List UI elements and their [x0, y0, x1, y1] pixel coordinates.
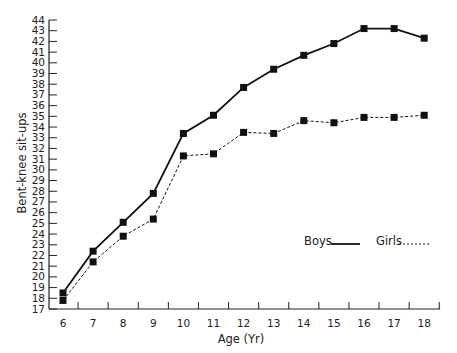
- data-point-marker: [421, 112, 428, 119]
- x-tick-label: 10: [177, 317, 190, 329]
- y-tick-label: 31: [32, 153, 45, 165]
- y-tick-label: 23: [32, 238, 45, 250]
- x-tick-label: 14: [297, 317, 311, 329]
- y-tick-label: 19: [32, 281, 45, 293]
- data-point-marker: [150, 190, 157, 197]
- x-tick-label: 7: [90, 317, 97, 329]
- x-tick-label: 9: [150, 317, 157, 329]
- y-tick-label: 43: [32, 24, 45, 36]
- legend: Boys Girls: [304, 234, 430, 248]
- data-point-marker: [120, 233, 127, 240]
- y-tick-label: 34: [32, 121, 46, 133]
- data-point-marker: [240, 84, 247, 91]
- data-point-marker: [391, 114, 398, 121]
- line-chart: 1718192021222324252627282930313233343536…: [0, 0, 457, 353]
- x-tick-label: 11: [207, 317, 220, 329]
- y-tick-label: 30: [32, 163, 45, 175]
- data-point-marker: [150, 216, 157, 223]
- x-tick-label: 15: [327, 317, 340, 329]
- y-tick-label: 41: [32, 46, 45, 58]
- y-tick-label: 17: [32, 303, 45, 315]
- x-tick-label: 17: [387, 317, 400, 329]
- data-point-marker: [270, 130, 277, 137]
- x-axis: 6789101112131415161718: [49, 302, 440, 329]
- data-point-marker: [240, 129, 247, 136]
- data-point-marker: [391, 25, 398, 32]
- x-tick-label: 6: [60, 317, 67, 329]
- legend-boys-label: Boys: [304, 234, 332, 248]
- data-point-marker: [60, 297, 67, 304]
- data-point-marker: [210, 150, 217, 157]
- y-tick-label: 20: [32, 270, 45, 282]
- data-point-marker: [90, 248, 97, 255]
- x-tick-label: 18: [418, 317, 431, 329]
- y-tick-label: 33: [32, 131, 45, 143]
- series-boys: [60, 25, 428, 296]
- data-point-marker: [90, 258, 97, 265]
- data-point-marker: [270, 66, 277, 73]
- data-point-marker: [180, 152, 187, 159]
- data-point-marker: [330, 119, 337, 126]
- y-axis-title: Bent-knee sit-ups: [15, 112, 29, 213]
- series-girls: [60, 112, 428, 304]
- x-axis-title: Age (Yr): [218, 332, 265, 346]
- y-tick-label: 36: [32, 99, 46, 111]
- data-point-marker: [300, 52, 307, 59]
- y-axis: 1718192021222324252627282930313233343536…: [32, 14, 57, 315]
- y-tick-label: 35: [32, 110, 45, 122]
- y-tick-label: 42: [32, 35, 45, 47]
- x-tick-label: 16: [357, 317, 371, 329]
- x-tick-label: 12: [237, 317, 250, 329]
- data-point-marker: [300, 117, 307, 124]
- y-tick-label: 28: [32, 185, 45, 197]
- data-point-marker: [330, 40, 337, 47]
- legend-girls-label: Girls: [376, 234, 402, 248]
- y-tick-label: 27: [32, 195, 45, 207]
- data-point-marker: [210, 112, 217, 119]
- y-tick-label: 25: [32, 217, 45, 229]
- series-layer: [60, 25, 428, 304]
- data-point-marker: [60, 289, 67, 296]
- x-tick-label: 13: [267, 317, 280, 329]
- data-point-marker: [421, 35, 428, 42]
- data-point-marker: [361, 114, 368, 121]
- data-point-marker: [180, 130, 187, 137]
- y-tick-label: 37: [32, 88, 45, 100]
- data-point-marker: [361, 25, 368, 32]
- y-tick-label: 44: [32, 14, 46, 26]
- y-tick-label: 32: [32, 142, 45, 154]
- y-tick-label: 29: [32, 174, 45, 186]
- y-tick-label: 26: [32, 206, 46, 218]
- y-tick-label: 21: [32, 260, 45, 272]
- y-tick-label: 24: [32, 228, 46, 240]
- y-tick-label: 40: [32, 56, 45, 68]
- y-tick-label: 22: [32, 249, 45, 261]
- x-tick-label: 8: [120, 317, 127, 329]
- y-tick-label: 39: [32, 67, 45, 79]
- y-tick-label: 38: [32, 78, 45, 90]
- y-tick-label: 18: [32, 292, 45, 304]
- data-point-marker: [120, 219, 127, 226]
